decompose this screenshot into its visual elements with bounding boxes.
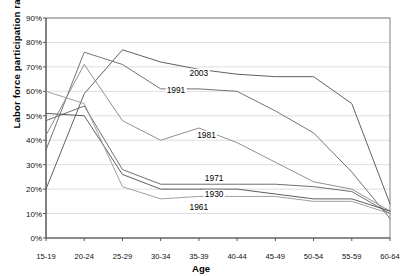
x-tick-label: 15-19	[36, 252, 55, 261]
y-tick-label: 40%	[10, 136, 42, 145]
x-tick-label: 45-49	[266, 252, 285, 261]
x-tick-label: 55-59	[342, 252, 361, 261]
x-tick-label: 20-24	[75, 252, 94, 261]
y-tick-label: 80%	[10, 38, 42, 47]
series-label-1991: 1991	[166, 86, 187, 94]
y-tick-label: 60%	[10, 87, 42, 96]
x-tick-label: 25-29	[113, 252, 132, 261]
series-label-1971: 1971	[204, 174, 225, 182]
y-tick-label: 10%	[10, 209, 42, 218]
y-tick-label: 50%	[10, 111, 42, 120]
x-tick-label: 40-44	[227, 252, 246, 261]
x-axis-title: Age	[0, 263, 402, 274]
x-tick-label: 35-39	[189, 252, 208, 261]
y-tick-label: 20%	[10, 185, 42, 194]
y-tick-label: 70%	[10, 62, 42, 71]
x-tick-label: 50-54	[304, 252, 323, 261]
series-label-1981: 1981	[196, 131, 217, 139]
y-tick-label: 0%	[10, 234, 42, 243]
x-tick-label: 30-34	[151, 252, 170, 261]
series-label-1930: 1930	[204, 190, 225, 198]
y-tick-label: 90%	[10, 14, 42, 23]
chart-container: Labor force participation rate 0%10%20%3…	[0, 0, 402, 276]
series-label-1961: 1961	[189, 203, 210, 211]
series-label-2003: 2003	[189, 69, 210, 77]
y-tick-label: 30%	[10, 160, 42, 169]
x-tick-label: 60-64	[380, 252, 399, 261]
